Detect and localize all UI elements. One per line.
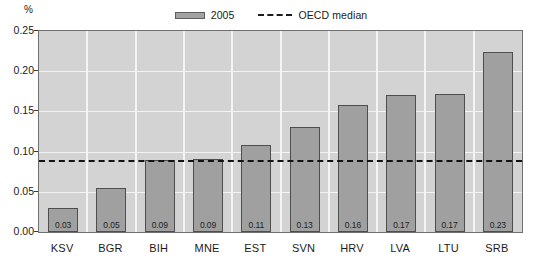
y-tick-label: 0.20	[0, 64, 34, 76]
bar-slot: 0.17	[377, 31, 425, 232]
oecd-median-line	[39, 160, 522, 162]
legend-label-oecd-median: OECD median	[298, 9, 367, 21]
x-axis: KSVBGRBIHMNEESTSVNHRVLVALTUSRB	[38, 236, 523, 264]
chart-figure: % 2005 OECD median 0.000.050.100.150.200…	[0, 0, 542, 271]
bar-lva[interactable]: 0.17	[386, 95, 416, 232]
bar-hrv[interactable]: 0.16	[338, 105, 368, 232]
y-tick-label: 0.05	[0, 185, 34, 197]
bar-value-label: 0.11	[242, 220, 270, 230]
x-tick-label-bgr: BGR	[86, 242, 134, 254]
legend-label-2005: 2005	[211, 9, 235, 21]
bar-value-label: 0.23	[484, 220, 512, 230]
bar-slot: 0.09	[136, 31, 184, 232]
x-tick-label-srb: SRB	[473, 242, 521, 254]
bar-ltu[interactable]: 0.17	[435, 94, 465, 232]
bar-slot: 0.05	[87, 31, 135, 232]
bar-srb[interactable]: 0.23	[483, 52, 513, 232]
legend-dashed-line-icon	[258, 14, 292, 16]
bar-slot: 0.13	[281, 31, 329, 232]
legend-entry-oecd-median: OECD median	[258, 9, 367, 21]
plot-area: 0.030.050.090.090.110.130.160.170.170.23	[38, 30, 523, 233]
bar-slot: 0.16	[329, 31, 377, 232]
bar-value-label: 0.09	[194, 220, 222, 230]
legend-bar-swatch-icon	[175, 12, 205, 19]
bar-est[interactable]: 0.11	[241, 145, 271, 232]
x-tick-label-mne: MNE	[183, 242, 231, 254]
chart-legend: 2005 OECD median	[0, 6, 542, 24]
bar-slot: 0.23	[474, 31, 522, 232]
x-tick-label-est: EST	[231, 242, 279, 254]
bar-mne[interactable]: 0.09	[193, 159, 223, 232]
x-tick-label-ksv: KSV	[38, 242, 86, 254]
bar-svn[interactable]: 0.13	[290, 127, 320, 232]
bar-value-label: 0.17	[387, 220, 415, 230]
bar-value-label: 0.17	[436, 220, 464, 230]
bar-slot: 0.09	[184, 31, 232, 232]
bar-slot: 0.11	[232, 31, 280, 232]
bar-bih[interactable]: 0.09	[145, 160, 175, 232]
y-tick-label: 0.15	[0, 104, 34, 116]
bar-value-label: 0.16	[339, 220, 367, 230]
y-axis: 0.000.050.100.150.200.25	[0, 30, 34, 233]
y-tick-label: 0.25	[0, 24, 34, 36]
bar-value-label: 0.05	[97, 220, 125, 230]
bar-value-label: 0.13	[291, 220, 319, 230]
bar-slot: 0.03	[39, 31, 87, 232]
bar-slot: 0.17	[425, 31, 473, 232]
legend-entry-2005: 2005	[175, 9, 235, 21]
bar-value-label: 0.03	[49, 220, 77, 230]
bar-bgr[interactable]: 0.05	[96, 188, 126, 232]
bar-value-label: 0.09	[146, 220, 174, 230]
x-tick-label-hrv: HRV	[328, 242, 376, 254]
y-tick-label: 0.00	[0, 225, 34, 237]
x-tick-label-bih: BIH	[135, 242, 183, 254]
bar-ksv[interactable]: 0.03	[48, 208, 78, 232]
x-tick-label-ltu: LTU	[424, 242, 472, 254]
x-tick-label-svn: SVN	[280, 242, 328, 254]
x-tick-label-lva: LVA	[376, 242, 424, 254]
y-tick-label: 0.10	[0, 145, 34, 157]
